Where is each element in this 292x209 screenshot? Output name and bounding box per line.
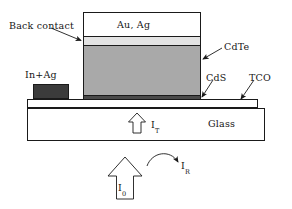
label-au-ag: Au, Ag — [117, 20, 150, 30]
label-i-r-subscript: R — [185, 168, 190, 176]
arrow-i-t — [129, 113, 146, 133]
label-glass: Glass — [208, 119, 235, 129]
label-i-t: IT — [151, 120, 160, 130]
label-i-t-subscript: T — [155, 127, 160, 135]
arrow-i-r — [147, 154, 178, 166]
label-i-0-subscript: 0 — [122, 190, 126, 198]
label-in-ag: In+Ag — [25, 70, 57, 80]
label-cds: CdS — [206, 73, 226, 83]
label-i-r: IR — [181, 161, 190, 171]
label-i-0: I0 — [118, 183, 126, 193]
label-back-contact: Back contact — [9, 21, 74, 31]
solar-cell-cross-section-figure: Back contact Au, Ag CdTe CdS TCO In+Ag G… — [0, 0, 292, 209]
leader-cdte — [203, 48, 222, 59]
label-tco: TCO — [249, 73, 271, 83]
label-cdte: CdTe — [224, 42, 249, 52]
annotation-overlay — [0, 0, 292, 209]
